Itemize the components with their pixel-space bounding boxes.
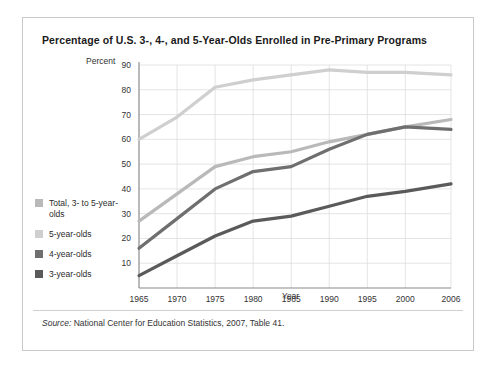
y-tick-label: 70 [109, 110, 131, 120]
legend-swatch-icon [35, 199, 43, 207]
screenshot-root: Percentage of U.S. 3-, 4-, and 5-Year-Ol… [0, 0, 496, 373]
legend-item-label: 4-year-olds [49, 249, 92, 260]
legend-item-label: Total, 3- to 5-year-olds [49, 198, 131, 220]
legend-swatch-icon [35, 270, 43, 278]
x-tick-label: 1990 [320, 294, 339, 304]
series-line [139, 184, 451, 276]
legend-item: 3-year-olds [35, 269, 131, 280]
x-tick-label: 1985 [282, 294, 301, 304]
x-tick-label: 1995 [358, 294, 377, 304]
source-label: Source: [42, 318, 71, 328]
y-tick-label: 50 [109, 159, 131, 169]
footer-divider [33, 310, 463, 311]
x-tick-label: 2006 [442, 294, 461, 304]
source-note: Source: National Center for Education St… [42, 318, 284, 328]
series-line [139, 70, 451, 139]
legend-item: 5-year-olds [35, 229, 131, 240]
legend-item-label: 5-year-olds [49, 229, 92, 240]
chart-card: Percentage of U.S. 3-, 4-, and 5-Year-Ol… [22, 17, 474, 351]
x-tick-label: 1965 [130, 294, 149, 304]
x-tick-label: 1980 [244, 294, 263, 304]
legend-item-label: 3-year-olds [49, 269, 92, 280]
x-tick-label: 2000 [396, 294, 415, 304]
y-tick-label: 80 [109, 85, 131, 95]
legend-item: 4-year-olds [35, 249, 131, 260]
x-tick-label: 1975 [206, 294, 225, 304]
legend-item: Total, 3- to 5-year-olds [35, 198, 131, 220]
source-text: National Center for Education Statistics… [71, 318, 284, 328]
legend-swatch-icon [35, 250, 43, 258]
y-tick-label: 60 [109, 134, 131, 144]
chart-legend: Total, 3- to 5-year-olds5-year-olds4-yea… [35, 198, 131, 289]
y-tick-label: 40 [109, 184, 131, 194]
legend-swatch-icon [35, 230, 43, 238]
series-line [139, 120, 451, 222]
y-tick-label: 90 [109, 60, 131, 70]
x-tick-label: 1970 [168, 294, 187, 304]
